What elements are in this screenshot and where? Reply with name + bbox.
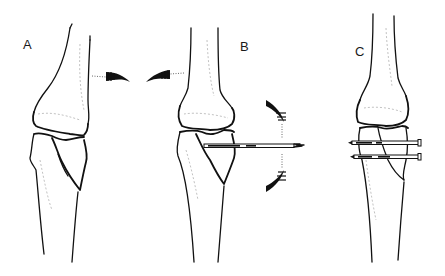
rotation-arrows-top — [92, 70, 184, 82]
panel-b-knee — [177, 28, 304, 262]
panel-a-knee — [30, 24, 90, 262]
panel-c-knee — [348, 14, 421, 262]
knee-fracture-illustration: A B C — [0, 0, 445, 276]
illustration-canvas — [0, 0, 445, 276]
